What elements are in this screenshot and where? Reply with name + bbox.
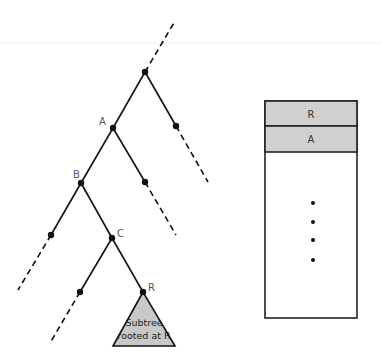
- ellipsis-dot: [311, 258, 315, 262]
- stack-frame-r-label: R: [308, 109, 315, 120]
- edge-top-right: [145, 72, 176, 126]
- node-b: [78, 180, 84, 186]
- dashed-edge-a-right: [145, 182, 176, 235]
- node-a-right: [142, 179, 148, 185]
- ellipsis-dot: [311, 201, 315, 205]
- ellipsis-dot: [311, 220, 315, 224]
- node-top-right: [173, 123, 179, 129]
- edge-a-right: [113, 128, 145, 182]
- label-c: C: [117, 228, 124, 239]
- stack-frame-a-label: A: [308, 134, 315, 145]
- edge-b-c: [81, 183, 112, 238]
- tree: [18, 21, 208, 343]
- edge-c-r: [112, 238, 143, 292]
- dashed-edge-root: [145, 21, 175, 72]
- label-a: A: [99, 116, 106, 127]
- edge-b-left: [51, 183, 81, 235]
- edge-a-b: [81, 128, 113, 183]
- subtree-label-line2: rooted at R: [117, 330, 171, 341]
- node-a: [110, 125, 116, 131]
- ellipsis-dot: [311, 238, 315, 242]
- tree-nodes: [48, 69, 179, 295]
- label-b: B: [73, 169, 80, 180]
- dashed-edge-c-left: [50, 292, 80, 343]
- edge-c-left: [80, 238, 112, 292]
- label-r: R: [148, 282, 155, 293]
- node-c: [109, 235, 115, 241]
- search-tree-diagram: Subtree rooted at R A B C R R A: [0, 0, 382, 363]
- recursion-stack: R A: [265, 101, 357, 318]
- subtree-label-line1: Subtree: [125, 317, 162, 328]
- node-b-left: [48, 232, 54, 238]
- node-top: [142, 69, 148, 75]
- node-r: [140, 289, 146, 295]
- dashed-edge-top-right: [176, 126, 208, 182]
- node-c-left: [77, 289, 83, 295]
- edge-top-a: [113, 72, 145, 128]
- dashed-edge-b-left: [18, 235, 51, 290]
